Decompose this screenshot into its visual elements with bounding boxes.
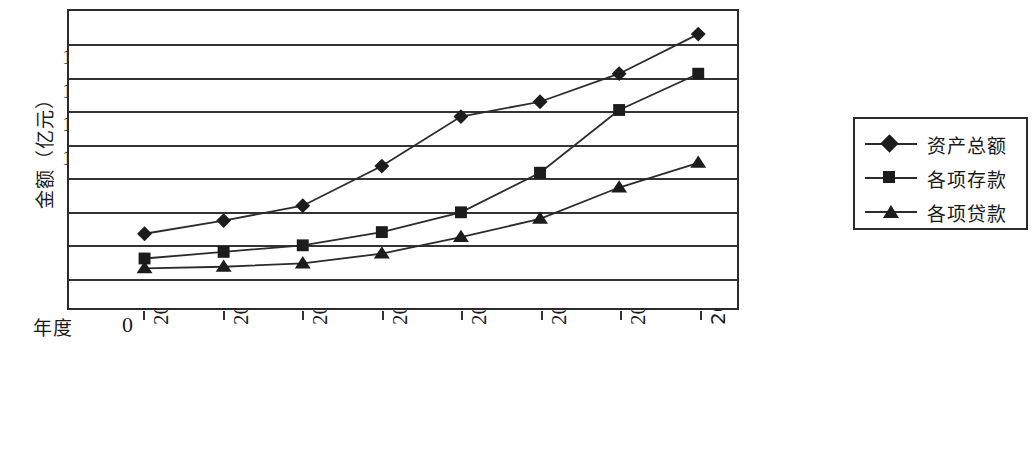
legend-swatch-square bbox=[865, 169, 917, 187]
x-axis-tick bbox=[461, 311, 463, 320]
legend-swatch-diamond bbox=[865, 135, 917, 153]
data-point-square bbox=[534, 167, 546, 179]
legend-item-label: 资产总额 bbox=[927, 131, 1007, 158]
data-point-square bbox=[297, 239, 309, 251]
x-axis-tick bbox=[143, 311, 145, 320]
x-axis-tick bbox=[382, 311, 384, 320]
plot-area bbox=[67, 9, 739, 310]
series-layer bbox=[69, 11, 737, 308]
x-axis-tick bbox=[302, 311, 304, 320]
x-axis-tick bbox=[541, 311, 543, 320]
legend-item-label: 各项存款 bbox=[927, 165, 1007, 192]
x-axis-tick bbox=[223, 311, 225, 320]
series-line bbox=[145, 74, 699, 259]
diamond-marker-icon bbox=[880, 134, 898, 152]
x-axis-title: 年度 bbox=[33, 313, 73, 340]
data-point-triangle bbox=[532, 212, 548, 224]
data-point-diamond bbox=[612, 66, 627, 81]
data-point-diamond bbox=[295, 198, 310, 213]
square-marker-icon bbox=[883, 171, 895, 183]
data-point-diamond bbox=[533, 94, 548, 109]
x-axis-tick bbox=[700, 311, 702, 320]
data-point-square bbox=[692, 68, 704, 80]
data-point-triangle bbox=[690, 155, 706, 167]
legend-item[interactable]: 各项贷款 bbox=[865, 199, 1007, 225]
data-point-diamond bbox=[691, 27, 706, 42]
legend-swatch-triangle bbox=[865, 203, 917, 221]
data-point-square bbox=[613, 104, 625, 116]
data-point-diamond bbox=[137, 226, 152, 241]
y-axis-zero-label: 0 bbox=[122, 312, 133, 338]
legend-item[interactable]: 各项存款 bbox=[865, 165, 1007, 191]
data-point-square bbox=[455, 206, 467, 218]
data-point-triangle bbox=[216, 259, 232, 271]
series-line bbox=[145, 34, 699, 234]
data-point-diamond bbox=[216, 213, 231, 228]
data-point-square bbox=[376, 226, 388, 238]
data-point-square bbox=[218, 246, 230, 258]
legend: 资产总额各项存款各项贷款 bbox=[853, 117, 1028, 230]
data-point-diamond bbox=[453, 109, 468, 124]
chart-figure: 金额（亿元） 年度 0 2004006008001000120014001600… bbox=[0, 0, 1033, 454]
triangle-marker-icon bbox=[883, 205, 899, 218]
legend-item-label: 各项贷款 bbox=[927, 199, 1007, 226]
data-point-diamond bbox=[374, 159, 389, 174]
x-axis-tick bbox=[620, 311, 622, 320]
legend-item[interactable]: 资产总额 bbox=[865, 131, 1007, 157]
